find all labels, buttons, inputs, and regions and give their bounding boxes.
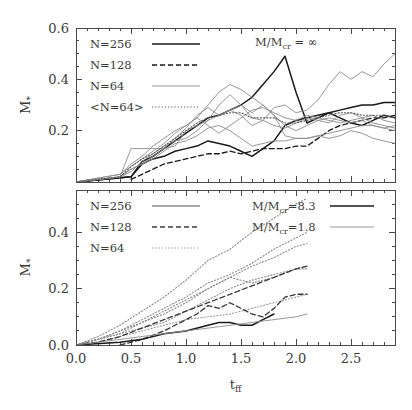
legend-label: <N=64> [90,100,144,114]
legend-label: N=64 [90,79,124,93]
y-tick-label: 0.4 [48,225,69,240]
legend-right-tail: =1.8 [288,220,316,234]
y-tick-label: 0.6 [48,21,69,36]
annotation-mass-ratio: M/Mcr = ∞ [255,35,317,51]
y-axis-title: M* [18,96,35,114]
bottom-panel: 0.00.20.4M*0.00.51.01.52.02.5tffN=256N=1… [18,190,395,394]
annotation-main: M/M [255,35,283,49]
y-axis-title-sub: * [25,96,35,101]
curves-group [76,54,395,182]
annotation-tail: = ∞ [291,35,318,49]
y-axis-title-main: M [18,263,33,276]
data-curve [76,56,395,182]
y-axis-title: M* [18,258,35,276]
data-curve [76,266,307,345]
data-curve [76,54,395,182]
x-tick-label: 2.0 [286,351,307,366]
x-tick-label: 1.5 [231,351,252,366]
x-tick-label: 0.0 [66,351,87,366]
y-axis-title-main: M [18,101,33,114]
legend-right-tail: =8.3 [288,199,316,213]
legend-right-sub: cr [279,227,287,236]
top-panel: 0.20.40.6M*N=256N=128N=64<N=64>M/Mcr = ∞ [18,21,395,183]
x-axis-title-sub: ff [235,384,242,394]
y-tick-label: 0.2 [48,281,69,296]
x-tick-label: 0.5 [121,351,142,366]
x-tick-label: 1.0 [176,351,197,366]
legend-label: N=128 [90,58,132,72]
x-axis-title: tff [230,377,242,394]
annotation-sub: cr [282,42,290,51]
legend-right-label: M/Mcr=1.8 [252,220,316,236]
legend-right-sub: cr [279,206,287,215]
legend-label: N=64 [90,241,124,255]
legend-right-main: M/M [252,220,280,234]
y-tick-label: 0.2 [48,123,69,138]
figure-root: 0.20.40.6M*N=256N=128N=64<N=64>M/Mcr = ∞… [0,0,412,410]
plot-canvas: 0.20.40.6M*N=256N=128N=64<N=64>M/Mcr = ∞… [0,0,412,410]
data-curve [76,108,395,182]
legend-right-main: M/M [252,199,280,213]
legend-label: N=256 [90,199,132,213]
legend-right-label: M/Mcr=8.3 [252,199,316,215]
legend-label: N=128 [90,220,132,234]
y-tick-label: 0.4 [48,72,69,87]
legend-label: N=256 [90,37,132,51]
x-tick-label: 2.5 [341,351,362,366]
data-curve [76,102,395,182]
data-curve [76,269,307,345]
panel-frame [76,190,395,345]
y-axis-title-sub: * [25,258,35,263]
